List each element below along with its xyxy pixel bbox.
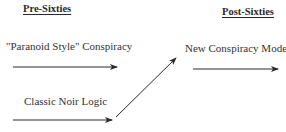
arrows-layer <box>0 0 286 132</box>
arrow-noir-to-new-model-icon <box>116 58 176 117</box>
